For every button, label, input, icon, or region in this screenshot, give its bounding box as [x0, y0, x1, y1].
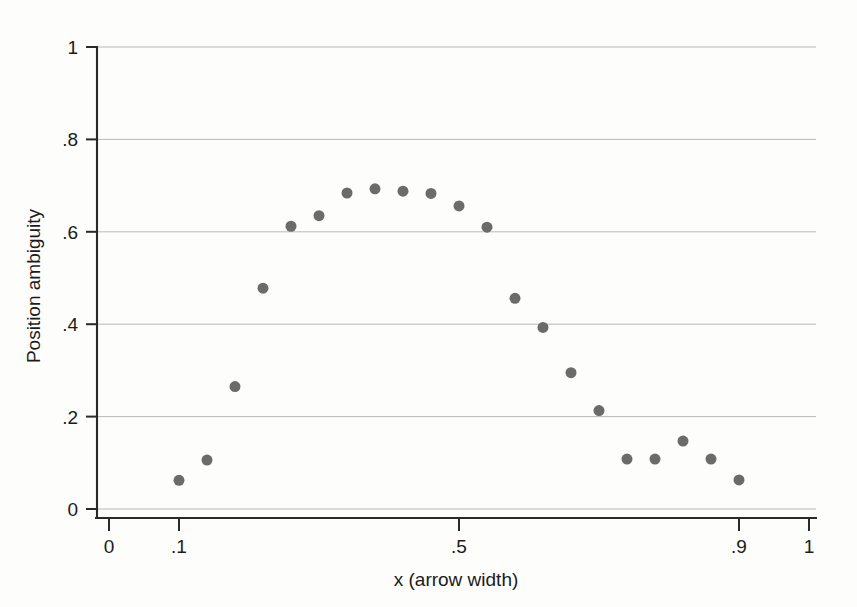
x-tick-label: .1	[171, 536, 187, 557]
data-point	[538, 322, 549, 333]
x-tick-label: .9	[731, 536, 747, 557]
y-axis-title: Position ambiguity	[23, 208, 44, 363]
data-point	[342, 187, 353, 198]
data-point	[566, 367, 577, 378]
x-axis-title: x (arrow width)	[394, 569, 519, 590]
data-point	[622, 454, 633, 465]
data-point	[202, 455, 213, 466]
y-tick-label: .8	[62, 129, 78, 150]
data-point	[370, 183, 381, 194]
data-point	[230, 381, 241, 392]
data-point	[482, 222, 493, 233]
data-point	[426, 188, 437, 199]
y-tick-label: .6	[62, 222, 78, 243]
y-tick-label: 0	[67, 499, 78, 520]
plot-background	[0, 0, 857, 607]
data-point	[510, 293, 521, 304]
data-point	[398, 186, 409, 197]
y-tick-label: .2	[62, 407, 78, 428]
data-point	[174, 475, 185, 486]
y-tick-label: .4	[62, 314, 78, 335]
x-tick-label: 1	[804, 536, 815, 557]
y-tick-label: 1	[67, 37, 78, 58]
data-point	[734, 474, 745, 485]
x-tick-label: 0	[104, 536, 115, 557]
data-point	[286, 221, 297, 232]
data-point	[314, 210, 325, 221]
scatter-plot: 0.2.4.6.81 0.1.5.91 x (arrow width) Posi…	[0, 0, 857, 607]
data-point	[454, 200, 465, 211]
chart-figure: 0.2.4.6.81 0.1.5.91 x (arrow width) Posi…	[0, 0, 857, 607]
data-point	[706, 454, 717, 465]
x-tick-label: .5	[451, 536, 467, 557]
data-point	[678, 436, 689, 447]
data-point	[258, 283, 269, 294]
data-point	[594, 405, 605, 416]
data-point	[650, 454, 661, 465]
